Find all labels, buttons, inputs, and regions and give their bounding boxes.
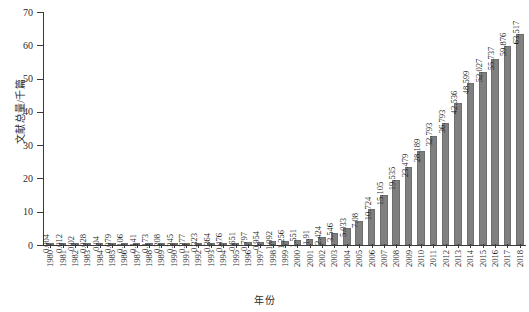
x-tick-label: 1982 bbox=[71, 250, 80, 267]
x-tick bbox=[372, 244, 373, 248]
bar-slot: 1.092 bbox=[266, 12, 278, 245]
x-tick-label: 1993 bbox=[207, 250, 216, 267]
x-tick-label: 2013 bbox=[454, 250, 463, 267]
bar-slot: 2.424 bbox=[316, 12, 328, 245]
x-label-slot: 1995 bbox=[229, 248, 241, 288]
bar-value-label: 3.546 bbox=[326, 223, 335, 242]
x-label-slot: 2000 bbox=[291, 248, 303, 288]
bar-slot: 0.797 bbox=[242, 12, 254, 245]
x-label-slot: 1988 bbox=[143, 248, 155, 288]
x-label-slot: 2017 bbox=[501, 248, 513, 288]
y-tick: 70 bbox=[37, 12, 43, 13]
bar-slot: 0.079 bbox=[106, 12, 118, 245]
bar-slot: 0.476 bbox=[217, 12, 229, 245]
x-tick bbox=[174, 244, 175, 248]
x-tick bbox=[347, 244, 348, 248]
x-tick bbox=[87, 244, 88, 248]
bar-slot: 10.724 bbox=[365, 12, 377, 245]
x-tick-label: 2012 bbox=[441, 250, 450, 267]
x-tick-label: 2002 bbox=[318, 250, 327, 267]
x-tick-label: 1980 bbox=[46, 250, 55, 267]
bar-value-label: 42.536 bbox=[450, 91, 459, 114]
x-tick bbox=[470, 244, 471, 248]
x-tick-label: 2006 bbox=[367, 250, 376, 267]
x-tick-label: 1996 bbox=[244, 250, 253, 267]
x-label-slot: 2003 bbox=[328, 248, 340, 288]
x-tick-label: 1991 bbox=[182, 250, 191, 267]
x-tick-label: 1988 bbox=[145, 250, 154, 267]
x-label-slot: 2007 bbox=[378, 248, 390, 288]
x-label-slot: 2015 bbox=[477, 248, 489, 288]
x-label-slot: 1991 bbox=[180, 248, 192, 288]
x-tick-label: 1998 bbox=[268, 250, 277, 267]
bar-slot: 3.546 bbox=[328, 12, 340, 245]
x-tick-label: 2010 bbox=[417, 250, 426, 267]
x-tick bbox=[446, 244, 447, 248]
x-tick bbox=[260, 244, 261, 248]
x-tick bbox=[507, 244, 508, 248]
bar-slot: 0.02 bbox=[69, 12, 81, 245]
x-label-slot: 2018 bbox=[514, 248, 526, 288]
bar-value-label: 1.551 bbox=[289, 229, 298, 248]
bar-value-label: 2.424 bbox=[314, 226, 323, 245]
y-tick: 10 bbox=[37, 212, 43, 213]
x-tick-label: 2014 bbox=[466, 250, 475, 267]
y-tick-label: 70 bbox=[23, 8, 33, 18]
bar-value-label: 28.189 bbox=[412, 138, 421, 161]
x-tick-label: 2009 bbox=[404, 250, 413, 267]
x-label-slot: 2011 bbox=[427, 248, 439, 288]
x-label-slot: 2008 bbox=[390, 248, 402, 288]
bar-value-label: 5.033 bbox=[338, 218, 347, 237]
x-label-slot: 1992 bbox=[192, 248, 204, 288]
bar-value-label: 59.876 bbox=[499, 33, 508, 56]
x-label-slot: 2002 bbox=[316, 248, 328, 288]
x-tick bbox=[322, 244, 323, 248]
x-label-slot: 1980 bbox=[44, 248, 56, 288]
x-tick bbox=[310, 244, 311, 248]
x-axis-tick-labels: 1980198119821983198419851986198719881989… bbox=[44, 248, 526, 288]
x-label-slot: 2005 bbox=[353, 248, 365, 288]
bar-slot: 0.004 bbox=[44, 12, 56, 245]
x-tick bbox=[285, 244, 286, 248]
x-tick bbox=[483, 244, 484, 248]
x-tick bbox=[495, 244, 496, 248]
x-tick bbox=[112, 244, 113, 248]
bar-slot: 48.599 bbox=[464, 12, 476, 245]
x-label-slot: 1999 bbox=[279, 248, 291, 288]
x-label-slot: 1996 bbox=[242, 248, 254, 288]
y-tick: 30 bbox=[37, 145, 43, 146]
x-tick bbox=[273, 244, 274, 248]
x-axis-title: 年份 bbox=[0, 292, 529, 307]
x-label-slot: 1987 bbox=[131, 248, 143, 288]
x-tick bbox=[137, 244, 138, 248]
x-tick-label: 1981 bbox=[58, 250, 67, 267]
bar-value-label: 15.105 bbox=[375, 182, 384, 205]
x-tick-label: 2005 bbox=[355, 250, 364, 267]
x-tick bbox=[100, 244, 101, 248]
x-tick bbox=[63, 244, 64, 248]
y-tick: 50 bbox=[37, 79, 43, 80]
bar-value-label: 48.599 bbox=[462, 71, 471, 94]
x-tick-label: 2015 bbox=[479, 250, 488, 267]
x-label-slot: 2014 bbox=[464, 248, 476, 288]
bar bbox=[442, 123, 450, 245]
x-tick-label: 1997 bbox=[256, 250, 265, 267]
x-label-slot: 1994 bbox=[217, 248, 229, 288]
bar-value-label: 55.737 bbox=[487, 47, 496, 70]
bar-slot: 19.535 bbox=[390, 12, 402, 245]
bar-value-label: 7.08 bbox=[351, 213, 360, 228]
x-tick-label: 1986 bbox=[120, 250, 129, 267]
y-tick: 40 bbox=[37, 112, 43, 113]
x-tick bbox=[248, 244, 249, 248]
x-label-slot: 1986 bbox=[118, 248, 130, 288]
x-tick bbox=[223, 244, 224, 248]
bar-slot: 1.256 bbox=[279, 12, 291, 245]
x-tick bbox=[75, 244, 76, 248]
x-tick-label: 2000 bbox=[293, 250, 302, 267]
bar-slot: 1.91 bbox=[304, 12, 316, 245]
bar-slot: 0.012 bbox=[56, 12, 68, 245]
bar-slot: 63.517 bbox=[514, 12, 526, 245]
x-label-slot: 1982 bbox=[69, 248, 81, 288]
bar-slot: 5.033 bbox=[341, 12, 353, 245]
bar-value-label: 32.793 bbox=[425, 123, 434, 146]
